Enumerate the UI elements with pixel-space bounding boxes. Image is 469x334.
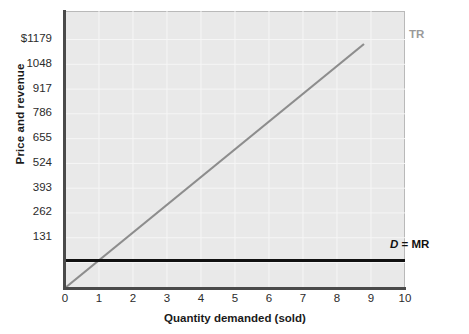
x-tick-label: 5 (220, 292, 250, 304)
x-axis-line (63, 287, 406, 290)
x-tick-label: 6 (254, 292, 284, 304)
x-axis-title: Quantity demanded (sold) (65, 312, 405, 324)
series-label-dmr: D = MR (390, 238, 429, 250)
x-tick-label: 10 (390, 292, 420, 304)
series-label-tr: TR (409, 28, 424, 40)
x-tick-label: 4 (186, 292, 216, 304)
y-tick-label: 262 (0, 205, 52, 217)
y-axis-line (63, 10, 66, 290)
chart-canvas (0, 0, 469, 334)
y-tick-label: 917 (0, 82, 52, 94)
x-tick-label: 3 (152, 292, 182, 304)
y-tick-label: $1179 (0, 32, 52, 44)
x-tick-label: 7 (288, 292, 318, 304)
marginal-revenue-text: = MR (398, 238, 429, 250)
y-tick-label: 393 (0, 181, 52, 193)
y-tick-label: 655 (0, 131, 52, 143)
y-tick-label: 1048 (0, 57, 52, 69)
series-line-tr (65, 44, 364, 288)
x-tick-label: 2 (118, 292, 148, 304)
x-tick-label: 9 (356, 292, 386, 304)
y-tick-label: 786 (0, 106, 52, 118)
y-tick-label: 524 (0, 156, 52, 168)
x-tick-label: 0 (50, 292, 80, 304)
x-tick-label: 1 (84, 292, 114, 304)
revenue-chart: Price and revenue Quantity demanded (sol… (0, 0, 469, 334)
x-tick-label: 8 (322, 292, 352, 304)
y-tick-label: 131 (0, 230, 52, 242)
